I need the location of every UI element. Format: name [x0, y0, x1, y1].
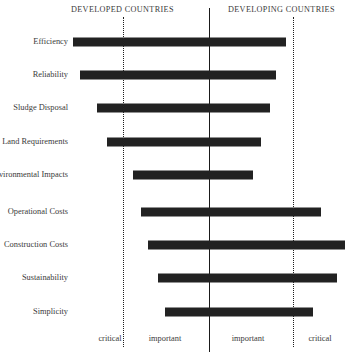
- bar: [73, 38, 286, 47]
- group-header-developed: DEVELOPED COUNTRIES: [71, 5, 174, 14]
- axis-tick-label: important: [232, 334, 265, 343]
- diverging-bar-chart: DEVELOPED COUNTRIES DEVELOPING COUNTRIES…: [0, 0, 356, 359]
- axis-tick-label: critical: [308, 334, 331, 343]
- bar: [97, 104, 270, 113]
- category-label: Operational Costs: [8, 208, 68, 216]
- reference-line-left-critical: [123, 17, 124, 347]
- category-label: Simplicity: [33, 308, 68, 316]
- axis-tick-label: important: [149, 334, 182, 343]
- bar: [133, 171, 253, 180]
- center-axis-line: [209, 8, 210, 352]
- category-label: Construction Costs: [4, 241, 68, 249]
- bar: [158, 274, 337, 283]
- bar: [148, 241, 345, 250]
- category-label: Sustainability: [22, 274, 68, 282]
- reference-line-right-critical: [293, 17, 294, 347]
- category-label: Sludge Disposal: [13, 104, 68, 112]
- bar: [165, 308, 313, 317]
- category-label: Land Requirements: [2, 138, 68, 146]
- bar: [80, 71, 276, 80]
- bar: [141, 208, 321, 217]
- group-header-developing: DEVELOPING COUNTRIES: [228, 5, 335, 14]
- category-label: Efficiency: [33, 38, 68, 46]
- category-label: Environmental Impacts: [0, 171, 68, 179]
- bar: [107, 138, 261, 147]
- axis-tick-label: critical: [98, 334, 121, 343]
- category-label: Reliability: [33, 71, 68, 79]
